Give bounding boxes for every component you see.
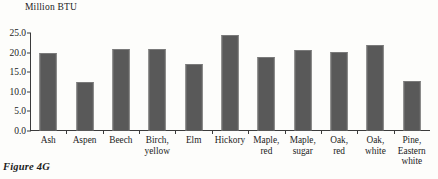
bar-slot — [103, 33, 139, 131]
bar — [149, 49, 166, 131]
x-axis-category-label: Maple, red — [248, 135, 284, 156]
x-axis-category-label: Elm — [175, 135, 211, 146]
bar-slot — [394, 33, 430, 131]
x-axis-category-label: Ash — [30, 135, 66, 146]
bar — [40, 53, 57, 131]
y-axis-title: Million BTU — [14, 2, 88, 13]
x-axis-category-label: Oak, white — [357, 135, 393, 156]
bar — [76, 82, 93, 131]
bar — [294, 50, 311, 131]
x-axis-category-label: Oak, red — [321, 135, 357, 156]
bar — [185, 64, 202, 131]
bar — [112, 49, 129, 131]
figure-caption: Figure 4G — [3, 161, 50, 172]
bar-slot — [321, 33, 357, 131]
x-axis-category-label: Aspen — [66, 135, 102, 146]
bar — [221, 35, 238, 131]
bar — [367, 45, 384, 131]
x-axis-category-label: Pine, Eastern white — [394, 135, 430, 167]
y-tick-label: 15.0 — [9, 67, 26, 77]
x-axis-category-label: Beech — [103, 135, 139, 146]
bar-slot — [212, 33, 248, 131]
y-tick-label: 0.0 — [14, 126, 26, 136]
y-tick-label: 5.0 — [14, 106, 26, 116]
y-tick-label: 25.0 — [9, 28, 26, 38]
bar — [403, 81, 420, 131]
bar — [258, 57, 275, 131]
plot-area: 25.020.015.010.05.00.0 — [30, 33, 430, 131]
bar-slot — [175, 33, 211, 131]
y-tick-label: 20.0 — [9, 48, 26, 58]
x-axis-category-label: Hickory — [212, 135, 248, 146]
bar-slot — [357, 33, 393, 131]
bar-slot — [30, 33, 66, 131]
bar-slot — [139, 33, 175, 131]
y-tick-label: 10.0 — [9, 87, 26, 97]
bar-slot — [285, 33, 321, 131]
bar — [331, 52, 348, 131]
bar-slot — [248, 33, 284, 131]
x-axis-category-label: Maple, sugar — [285, 135, 321, 156]
x-axis-category-label: Birch, yellow — [139, 135, 175, 156]
figure-container: Million BTU 25.020.015.010.05.00.0 AshAs… — [0, 0, 438, 179]
bar-slot — [66, 33, 102, 131]
